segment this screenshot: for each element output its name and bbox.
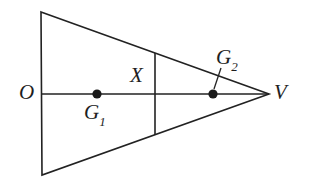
label-chord-point-text: X [130,63,143,87]
label-origin-text: O [19,80,34,104]
label-g2: G2 [216,47,238,68]
label-g2-subscript: 2 [231,59,238,74]
label-g1-subscript: 1 [99,114,106,129]
label-g1: G1 [84,102,106,123]
label-vertex: V [274,82,287,103]
diagram-canvas [0,0,313,186]
g2-point [208,89,217,98]
label-g2-base: G [216,45,231,69]
g2-leader-line [214,68,221,89]
label-g1-base: G [84,100,99,124]
g1-point [92,89,101,98]
label-vertex-text: V [274,80,287,104]
geometry-diagram: O X V G1 G2 [0,0,313,186]
label-chord-point: X [130,65,143,86]
label-origin: O [19,82,34,103]
